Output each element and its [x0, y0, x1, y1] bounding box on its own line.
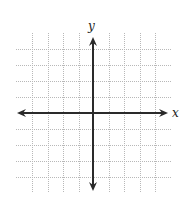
x-axis-label: x [172, 106, 179, 120]
coordinate-plane: x y [0, 0, 190, 202]
axes [17, 37, 168, 191]
y-axis-label: y [87, 19, 95, 33]
